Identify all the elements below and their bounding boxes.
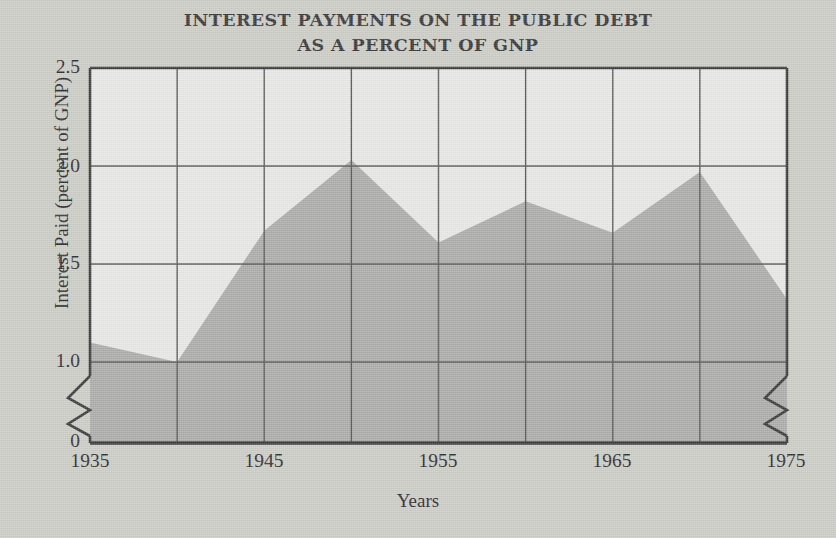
chart-plot — [0, 0, 836, 538]
y-axis-break-left-icon — [68, 376, 90, 436]
chart-page: INTEREST PAYMENTS ON THE PUBLIC DEBT AS … — [0, 0, 836, 538]
